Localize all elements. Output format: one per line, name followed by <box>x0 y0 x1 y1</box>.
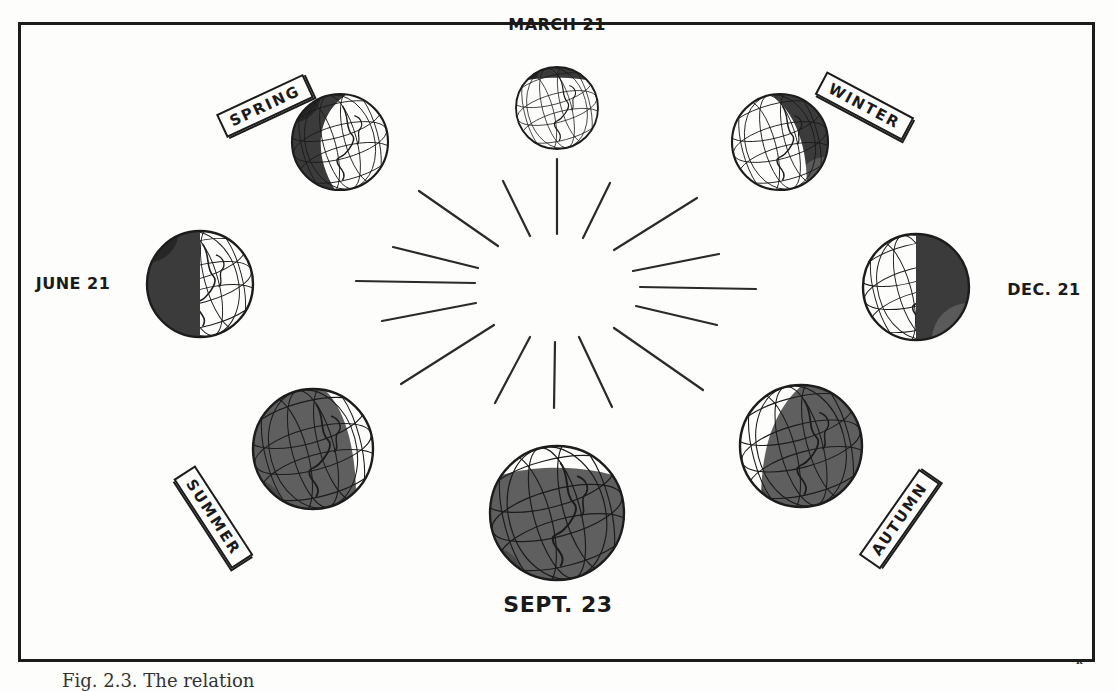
sun-rays <box>356 159 756 408</box>
globe-summer <box>243 379 384 520</box>
globe-sept <box>478 434 635 591</box>
globe-autumn <box>729 374 872 517</box>
label-sept-23: SEPT. 23 <box>503 592 612 617</box>
figure-caption: Fig. 2.3. The relation <box>62 670 254 691</box>
globe-winter <box>724 86 837 199</box>
label-march-21: MARCH 21 <box>508 15 606 34</box>
globe-june <box>138 222 262 346</box>
globe-march <box>509 60 605 156</box>
corner-mark: R <box>1076 656 1083 666</box>
globe-dec <box>854 225 978 349</box>
label-june-21: JUNE 21 <box>36 274 111 293</box>
label-dec-21: DEC. 21 <box>1007 280 1080 299</box>
